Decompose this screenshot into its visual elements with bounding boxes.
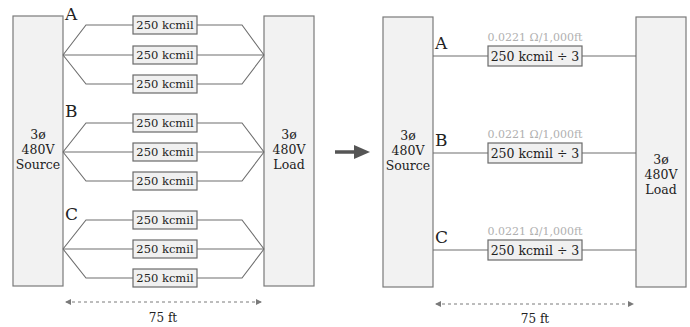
resistance-label-b: 0.0221 Ω/1,000ft bbox=[488, 128, 583, 141]
load-label-line2: 480V bbox=[273, 142, 307, 157]
right-source-box: 3ø 480V Source bbox=[383, 17, 433, 287]
right-phase-a: A 0.0221 Ω/1,000ft 250 kcmil ÷ 3 bbox=[433, 31, 636, 66]
resistance-label-c: 0.0221 Ω/1,000ft bbox=[488, 225, 583, 238]
right-distance-dimension: 75 ft bbox=[436, 304, 633, 326]
source-label-line1: 3ø bbox=[400, 128, 416, 143]
right-phase-b: B 0.0221 Ω/1,000ft 250 kcmil ÷ 3 bbox=[433, 128, 636, 163]
phase-label-a: A bbox=[64, 4, 78, 24]
phase-label-a: A bbox=[434, 33, 448, 53]
phase-label-b: B bbox=[435, 130, 448, 150]
cable-label: 250 kcmil bbox=[136, 48, 194, 62]
cable-label: 250 kcmil bbox=[136, 174, 194, 188]
cable-label: 250 kcmil bbox=[136, 145, 194, 159]
cable-label: 250 kcmil bbox=[136, 242, 194, 256]
source-label-line3: Source bbox=[16, 157, 61, 172]
cable-label: 250 kcmil bbox=[136, 18, 194, 32]
resistance-label-a: 0.0221 Ω/1,000ft bbox=[488, 31, 583, 44]
right-phase-c: C 0.0221 Ω/1,000ft 250 kcmil ÷ 3 bbox=[433, 225, 636, 260]
left-diagram: 3ø 480V Source 3ø 480V Load A 250 kcmil … bbox=[13, 4, 314, 325]
cable-label: 250 kcmil bbox=[136, 77, 194, 91]
source-label-line2: 480V bbox=[22, 142, 56, 157]
right-arrow-icon bbox=[335, 145, 370, 159]
right-load-box: 3ø 480V Load bbox=[636, 17, 686, 287]
right-diagram: 3ø 480V Source 3ø 480V Load A 0.0221 Ω/1… bbox=[383, 17, 686, 326]
phase-label-b: B bbox=[65, 101, 78, 121]
left-distance-label: 75 ft bbox=[149, 311, 178, 325]
cable-label: 250 kcmil bbox=[136, 213, 194, 227]
left-distance-dimension: 75 ft bbox=[66, 302, 261, 325]
wiring-diagram: 3ø 480V Source 3ø 480V Load A 250 kcmil … bbox=[0, 0, 690, 327]
right-distance-label: 75 ft bbox=[521, 312, 550, 326]
source-label-line1: 3ø bbox=[30, 127, 46, 142]
phase-label-c: C bbox=[435, 227, 448, 247]
load-label-line3: Load bbox=[273, 157, 304, 172]
load-label-line1: 3ø bbox=[653, 152, 669, 167]
combined-cable-label-b: 250 kcmil ÷ 3 bbox=[491, 146, 580, 161]
source-label-line2: 480V bbox=[392, 143, 426, 158]
load-label-line2: 480V bbox=[645, 167, 679, 182]
phase-label-c: C bbox=[65, 204, 78, 224]
load-label-line3: Load bbox=[645, 182, 676, 197]
combined-cable-label-c: 250 kcmil ÷ 3 bbox=[491, 243, 580, 258]
left-phase-b: B 250 kcmil 250 kcmil 250 kcmil bbox=[63, 101, 264, 190]
cable-label: 250 kcmil bbox=[136, 116, 194, 130]
left-load-box: 3ø 480V Load bbox=[264, 16, 314, 286]
source-label-line3: Source bbox=[386, 158, 431, 173]
left-source-box: 3ø 480V Source bbox=[13, 16, 63, 286]
combined-cable-label-a: 250 kcmil ÷ 3 bbox=[491, 49, 580, 64]
load-label-line1: 3ø bbox=[281, 127, 297, 142]
cable-label: 250 kcmil bbox=[136, 271, 194, 285]
left-phase-a: A 250 kcmil 250 kcmil 250 kcmil bbox=[63, 4, 264, 93]
left-phase-c: C 250 kcmil 250 kcmil 250 kcmil bbox=[63, 204, 264, 287]
